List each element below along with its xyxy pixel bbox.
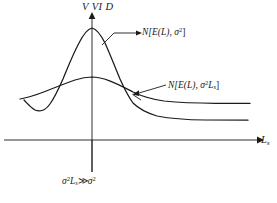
annotation-mid-prefix: N[E(L), [168,80,200,90]
annotation-mid-arrow-shaft [139,85,166,93]
figure-vector-layer [0,0,277,203]
condition-sigma-2-exponent: 2 [92,175,95,182]
figure-canvas: V VI D Ls N[E(L), σ2] N[E(L), σ2Ls] σ2Ls… [0,0,277,203]
curve-narrow-distribution [24,28,248,120]
annotation-mid-suffix: ] [216,80,219,90]
annotation-top-leader-line [102,33,114,45]
x-axis-label: Ls [261,135,270,147]
annotation-top-prefix: N[E(L), [142,27,174,37]
x-axis-label-subscript: s [267,139,270,147]
condition-label: σ2Ls≫σ2 [62,176,96,187]
condition-operator: ≫ [78,176,88,186]
annotation-top-suffix: ] [182,27,185,37]
annotation-label-narrow-distribution: N[E(L), σ2] [142,27,185,37]
y-axis-label: V VI D [82,2,113,13]
annotation-top-leader-group [102,30,142,45]
annotation-label-broad-distribution: N[E(L), σ2Ls] [168,80,219,91]
y-axis-arrow-icon [89,12,96,19]
x-axis-group [4,137,264,144]
